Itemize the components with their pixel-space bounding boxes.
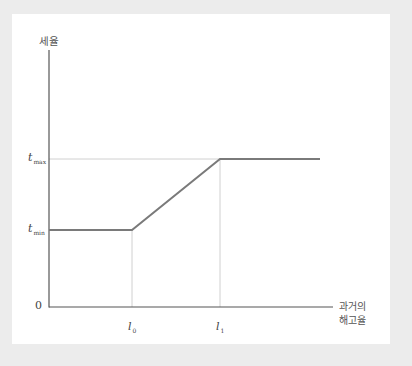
x-tick-l1: l1 (216, 320, 224, 334)
y-tick-zero: 0 (35, 299, 42, 312)
y-axis-label: 세율 (39, 33, 59, 48)
tax-rate-line (49, 159, 320, 230)
x-axis-label-line1: 과거의 (339, 300, 366, 314)
x-tick-l0: l0 (128, 320, 136, 334)
x-axis-label: 과거의 해고율 (339, 300, 366, 328)
y-tick-tmax: tmax (28, 151, 46, 165)
x-axis-label-line2: 해고율 (339, 314, 366, 328)
y-tick-tmin: tmin (28, 222, 45, 236)
